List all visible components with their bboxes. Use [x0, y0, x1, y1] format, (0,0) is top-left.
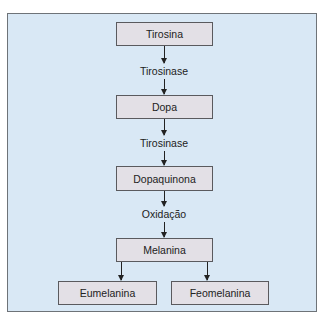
node-tirosina: Tirosina [116, 22, 213, 46]
edge-label-tirosinase-2: Tirosinase [104, 137, 224, 149]
node-feomelanina: Feomelanina [171, 281, 269, 305]
arrow-down-icon [164, 46, 165, 63]
node-label: Melanina [143, 244, 186, 256]
node-eumelanina: Eumelanina [58, 281, 157, 305]
node-label: Feomelanina [190, 287, 251, 299]
arrow-down-icon [164, 79, 165, 94]
node-label: Eumelanina [80, 287, 135, 299]
arrow-down-icon [121, 262, 122, 280]
arrow-down-icon [164, 119, 165, 135]
arrow-down-icon [207, 262, 208, 280]
node-label: Dopaquinona [133, 173, 195, 185]
arrow-down-icon [164, 191, 165, 206]
edge-label-tirosinase-1: Tirosinase [104, 65, 224, 77]
edge-label-oxidacao: Oxidação [104, 208, 224, 220]
arrow-down-icon [164, 222, 165, 237]
arrow-down-icon [164, 151, 165, 165]
node-dopa: Dopa [116, 95, 213, 119]
node-label: Dopa [152, 101, 177, 113]
node-melanina: Melanina [116, 238, 213, 262]
node-dopaquinona: Dopaquinona [116, 166, 213, 191]
node-label: Tirosina [146, 28, 183, 40]
